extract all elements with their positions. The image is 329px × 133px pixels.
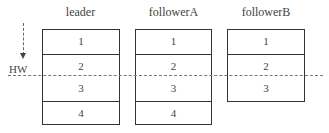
arrow-down-icon	[20, 53, 26, 59]
log-title-followerB: followerB	[227, 5, 305, 20]
log-followerB: 1 2 3	[227, 29, 305, 102]
log-entry: 3	[136, 77, 211, 101]
hw-arrow-shaft	[23, 23, 24, 55]
hw-label: HW	[9, 63, 27, 75]
log-entry: 3	[228, 77, 304, 101]
log-entry: 1	[43, 30, 119, 54]
log-title-leader: leader	[42, 5, 119, 20]
log-entry: 2	[228, 54, 304, 78]
log-followerA: 1 2 3 4	[135, 29, 212, 125]
log-entry: 2	[136, 54, 211, 78]
log-entry: 1	[136, 30, 211, 54]
hw-dashed-line	[8, 75, 323, 76]
log-entry: 4	[43, 101, 119, 125]
log-entry: 4	[136, 101, 211, 125]
log-entry: 3	[43, 77, 119, 101]
log-entry: 2	[43, 54, 119, 78]
log-entry: 1	[228, 30, 304, 54]
log-leader: 1 2 3 4	[42, 29, 120, 125]
log-title-followerA: followerA	[135, 5, 212, 20]
